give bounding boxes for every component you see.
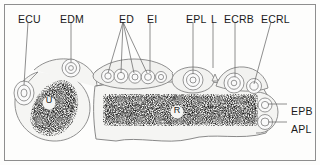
label-ei: EI [147, 14, 157, 25]
label-epb: EPB [291, 106, 313, 117]
ecrl-tendon [247, 79, 262, 94]
label-ecu: ECU [18, 14, 41, 25]
bone-label-u: U [46, 95, 53, 105]
label-ed: ED [119, 14, 134, 25]
ed-tendon-4 [141, 70, 155, 84]
ed-tendon-3 [129, 71, 141, 83]
bone-label-r: R [174, 105, 181, 115]
ei-tendon [156, 72, 167, 83]
label-ecrb: ECRB [224, 14, 254, 25]
epb-tendon [258, 98, 272, 112]
ed-tendon-1 [102, 70, 115, 83]
ecrb-tendon [224, 73, 244, 93]
label-edm: EDM [60, 14, 84, 25]
ecrl-leader [254, 22, 271, 84]
label-epl: EPL [186, 14, 206, 25]
ecu-leader [24, 22, 28, 85]
label-l: L [211, 14, 217, 25]
label-apl: APL [291, 124, 311, 135]
label-ecrl: ECRL [261, 14, 290, 25]
anatomy-figure: UR ECUEDMEDEIEPLLECRBECRL EPBAPL [0, 0, 320, 165]
